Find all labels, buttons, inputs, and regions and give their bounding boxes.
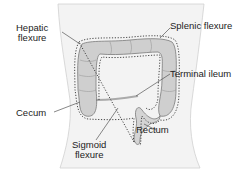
label-hepatic-line2: flexure: [16, 33, 48, 43]
label-cecum: Cecum: [16, 108, 46, 118]
label-sigmoid-line2: flexure: [72, 150, 106, 160]
label-sigmoid-flexure: Sigmoid flexure: [72, 140, 106, 160]
label-terminal-ileum: Terminal ileum: [170, 69, 231, 79]
colon-diagram: Hepatic flexure Splenic flexure Terminal…: [0, 0, 248, 170]
label-splenic-flexure: Splenic flexure: [170, 21, 232, 31]
label-hepatic-flexure: Hepatic flexure: [16, 23, 48, 43]
label-rectum: Rectum: [136, 125, 169, 135]
